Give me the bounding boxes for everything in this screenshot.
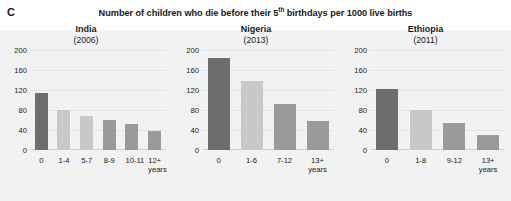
bar [57,110,70,151]
x-tick-label-text: 8-9 [104,156,115,165]
x-tick-label: 9-12 [443,156,465,174]
x-tick-label: 0 [35,156,48,174]
bar-column [477,50,499,150]
y-tick-label: 200 [186,46,199,55]
bar-column [125,50,138,150]
plot-area-ethiopia: 04080120160200 [340,50,511,150]
bar [477,135,499,150]
bar-column [103,50,116,150]
y-axis-nigeria: 04080120160200 [172,50,202,150]
bar [376,89,398,150]
y-tick-label: 160 [354,66,367,75]
grid-area-nigeria [202,50,334,150]
bar-column [208,50,230,150]
y-tick-label: 0 [195,146,199,155]
x-axis-unit-label: years [307,165,329,174]
panel-title-ethiopia: Ethiopia [340,24,511,35]
y-tick-label: 40 [359,126,367,135]
y-axis-ethiopia: 04080120160200 [340,50,370,150]
x-tick-label: 7-12 [274,156,296,174]
x-tick-label-text: 9-12 [447,156,462,165]
x-axis-unit-label: years [148,165,161,174]
grid-area-india [30,50,166,150]
figure-title-text-a: Number of children who die before their … [99,8,279,18]
x-tick-label-text: 13+ [482,156,495,165]
x-tick-label: 13+years [477,156,499,174]
bar-column [80,50,93,150]
x-tick-label: 0 [208,156,230,174]
x-tick-label: 12+years [148,156,161,174]
bar-column [410,50,432,150]
x-tick-label-text: 1-8 [415,156,426,165]
bar-column [148,50,161,150]
x-axis-nigeria: 01-67-1213+years [202,156,334,174]
bar-series-ethiopia [370,50,505,150]
chart-panel-nigeria: Nigeria(2013)0408012016020001-67-1213+ye… [172,24,340,201]
x-tick-label: 8-9 [103,156,116,174]
y-tick-label: 0 [363,146,367,155]
bar [125,124,138,151]
bar-column [443,50,465,150]
panel-year-ethiopia: (2011) [340,35,511,46]
x-tick-label-text: 12+ [148,156,161,165]
figure-title-text-b: birthdays per 1000 live births [284,8,412,18]
figure-title: Number of children who die before their … [0,6,511,18]
plot-area-india: 04080120160200 [0,50,172,150]
x-tick-label-text: 7-12 [277,156,292,165]
plot-area-nigeria: 04080120160200 [172,50,340,150]
bar [410,110,432,150]
x-tick-label-text: 0 [39,156,43,165]
x-tick-label: 5-7 [80,156,93,174]
x-tick-label: 1-6 [241,156,263,174]
bar-column [376,50,398,150]
bar [241,81,263,150]
x-tick-label: 1-4 [57,156,70,174]
bar-column [57,50,70,150]
x-tick-label-text: 1-6 [246,156,257,165]
chart-panel-ethiopia: Ethiopia(2011)0408012016020001-89-1213+y… [340,24,511,201]
x-axis-india: 01-45-78-910-1112+years [30,156,166,174]
y-tick-label: 0 [23,146,27,155]
y-tick-label: 160 [14,66,27,75]
x-tick-label-text: 10-11 [125,156,144,165]
y-tick-label: 120 [14,86,27,95]
grid-area-ethiopia [370,50,505,150]
y-tick-label: 40 [191,126,199,135]
x-tick-label-text: 0 [216,156,220,165]
y-tick-label: 80 [19,106,27,115]
y-tick-label: 120 [354,86,367,95]
bar-series-nigeria [202,50,334,150]
x-tick-label: 10-11 [125,156,138,174]
panel-year-india: (2006) [0,35,172,46]
bar-column [307,50,329,150]
y-tick-label: 200 [14,46,27,55]
bar-column [241,50,263,150]
bar [148,131,161,150]
x-tick-label-text: 13+ [311,156,324,165]
bar-column [274,50,296,150]
bar [35,93,48,151]
bar [274,104,296,151]
panel-year-nigeria: (2013) [172,35,340,46]
x-tick-label: 13+years [307,156,329,174]
y-tick-label: 40 [19,126,27,135]
panel-title-india: India [0,24,172,35]
y-tick-label: 80 [359,106,367,115]
bar [443,123,465,151]
panel-title-nigeria: Nigeria [172,24,340,35]
bar [103,120,116,150]
x-axis-ethiopia: 01-89-1213+years [370,156,505,174]
x-tick-label: 0 [376,156,398,174]
y-tick-label: 160 [186,66,199,75]
bar [208,58,230,151]
chart-panels: India(2006)0408012016020001-45-78-910-11… [0,24,511,201]
bar-series-india [30,50,166,150]
y-tick-label: 200 [354,46,367,55]
x-tick-label-text: 1-4 [58,156,69,165]
y-axis-india: 04080120160200 [0,50,30,150]
y-tick-label: 80 [191,106,199,115]
y-tick-label: 120 [186,86,199,95]
chart-panel-india: India(2006)0408012016020001-45-78-910-11… [0,24,172,201]
x-tick-label: 1-8 [410,156,432,174]
figure-root: C Number of children who die before thei… [0,0,511,201]
